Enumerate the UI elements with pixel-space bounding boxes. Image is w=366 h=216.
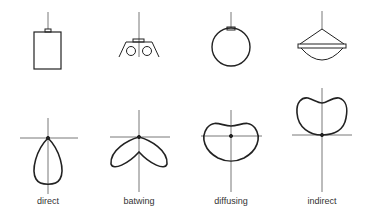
- bowl-luminaire-icon: [298, 11, 346, 60]
- label-indirect: indirect: [282, 196, 362, 206]
- batwing-distribution-curve: [110, 110, 170, 192]
- indirect-distribution-curve: [292, 88, 352, 192]
- label-batwing: batwing: [99, 196, 179, 206]
- globe-luminaire-icon: [212, 12, 250, 66]
- label-direct: direct: [8, 196, 88, 206]
- cylinder-luminaire-icon: [34, 12, 61, 69]
- diagram-canvas: [0, 0, 366, 216]
- batwing-luminaire-icon: [119, 12, 159, 57]
- label-diffusing: diffusing: [191, 196, 271, 206]
- direct-distribution-curve: [20, 118, 78, 194]
- diffusing-distribution-curve: [201, 110, 262, 192]
